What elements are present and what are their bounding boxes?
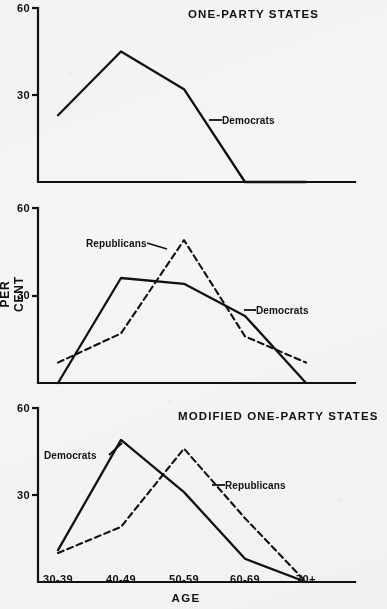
xtick-50-59: 50-59 [169, 573, 199, 585]
leader-democrats [109, 443, 122, 455]
x-axis-title: AGE [171, 592, 200, 604]
xtick-30-39: 30-39 [43, 573, 73, 585]
panel-1-plot [0, 0, 387, 200]
xtick-60-69: 60-69 [230, 573, 260, 585]
series-line-democrats [58, 440, 306, 582]
panel-1-ytick-60: 60 [17, 2, 30, 14]
leader-republicans [147, 243, 167, 249]
panel-2-series-label-republicans: Republicans [86, 238, 147, 249]
y-axis-title: PER CENT [0, 264, 26, 324]
panel-3-series-label-republicans: Republicans [225, 480, 286, 491]
panel-2-ytick-60: 60 [17, 202, 30, 214]
panel-one-party-states: ONE-PARTY STATES 60 30 Democrats [0, 0, 387, 200]
series-line-republicans [58, 240, 306, 362]
panel-3-ytick-30: 30 [17, 489, 30, 501]
panel-2-series-label-democrats: Democrats [256, 305, 309, 316]
panel-1-series-label-democrats: Democrats [222, 115, 275, 126]
series-line-democrats [58, 278, 306, 383]
figure-chart-panels: ONE-PARTY STATES 60 30 Democrats MODIFIE… [0, 0, 387, 609]
xtick-40-49: 40-49 [106, 573, 136, 585]
series-line-republicans [58, 449, 306, 582]
panel-3-series-label-democrats: Democrats [44, 450, 97, 461]
panel-1-title: ONE-PARTY STATES [188, 8, 319, 20]
xtick-70-plus: 70+ [296, 573, 316, 585]
panel-3-ytick-60: 60 [17, 402, 30, 414]
panel-modified-one-party-states: MODIFIED ONE-PARTY STATES 60 30 Republic… [0, 200, 387, 400]
panel-1-ytick-30: 30 [17, 89, 30, 101]
panel-2-plot [0, 200, 387, 400]
